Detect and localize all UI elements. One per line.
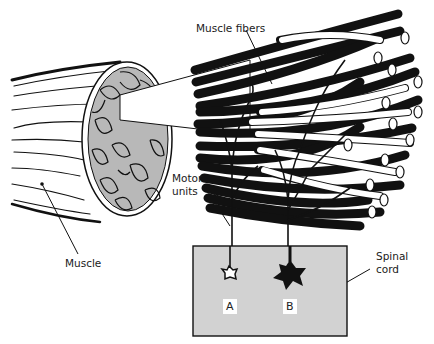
label-spinal-cord-line2: cord: [376, 263, 399, 276]
label-motor-units-line2: units: [172, 185, 198, 198]
label-neuron-a: A: [223, 299, 237, 314]
label-motor-units-line1: Motor: [172, 172, 202, 185]
spinal-cord-box: [193, 246, 347, 336]
muscle-motor-unit-diagram: Muscle fibers Motor units Muscle Spinal …: [0, 0, 434, 344]
label-muscle: Muscle: [65, 257, 101, 270]
label-spinal-cord-line1: Spinal: [376, 250, 408, 263]
diagram-artwork: [0, 0, 434, 344]
label-muscle-fibers: Muscle fibers: [196, 22, 265, 35]
muscle-pointer-dot: [40, 182, 44, 186]
label-neuron-b: B: [283, 299, 297, 314]
